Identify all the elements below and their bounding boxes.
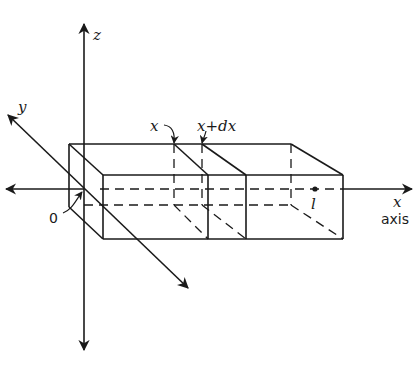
y-axis-label: y [17, 98, 27, 116]
x-position-label: x [150, 117, 159, 135]
x-plus-dx-label: x+dx [197, 117, 237, 135]
x-axis-sublabel: axis [381, 211, 409, 227]
x-pointer [164, 125, 174, 143]
length-point [312, 186, 317, 191]
x-axis-label: x [393, 193, 402, 211]
bar-solid-edges [69, 144, 343, 239]
z-axis-label: z [92, 26, 101, 44]
length-label: l [311, 195, 316, 213]
y-axis [8, 115, 188, 288]
bar-diagram: z y x axis 0 x x+dx l [0, 0, 417, 365]
origin-label: 0 [49, 210, 58, 226]
